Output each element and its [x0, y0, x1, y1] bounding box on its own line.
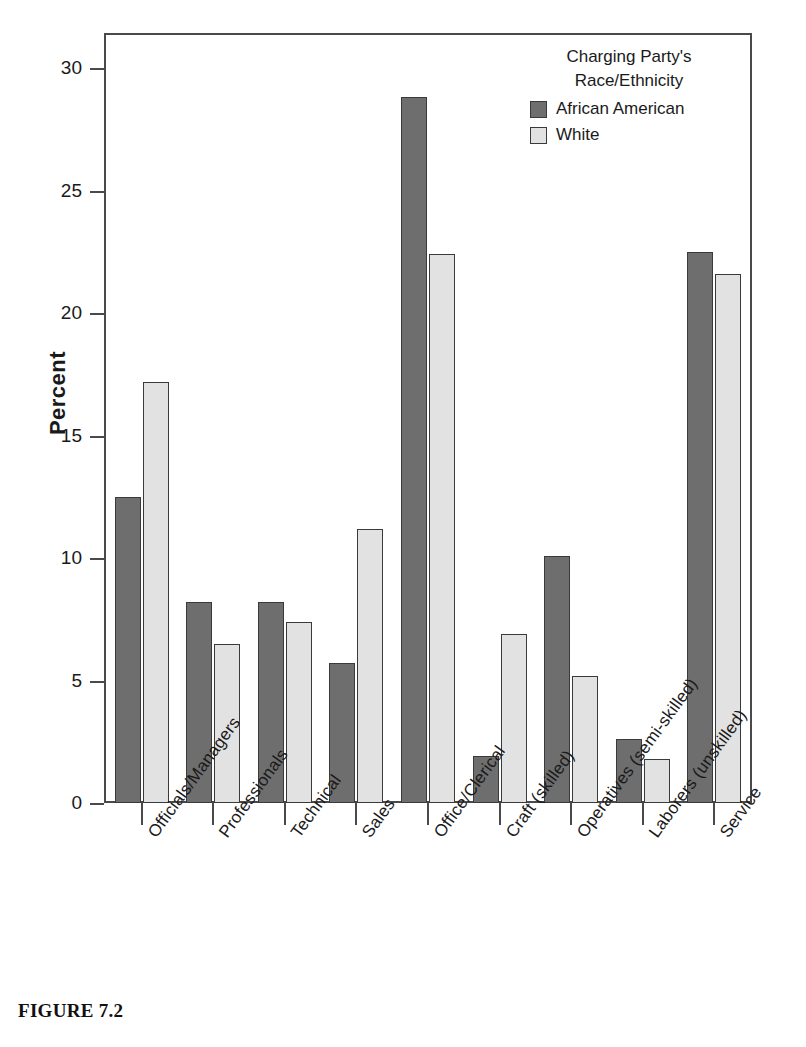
x-axis-tick-mark: [141, 803, 143, 825]
y-axis-tick: 30: [40, 68, 104, 69]
legend-entry-label: White: [556, 125, 599, 145]
bar-group: [607, 35, 679, 803]
bar: [286, 622, 312, 803]
y-axis-tick-mark: [90, 313, 104, 315]
x-axis-tick-mark: [427, 803, 429, 825]
x-axis-tick-mark: [355, 803, 357, 825]
y-axis-tick-label: 5: [71, 670, 82, 692]
legend-title: Charging Party'sRace/Ethnicity: [516, 45, 742, 93]
y-axis-tick-mark: [90, 803, 104, 805]
bar: [143, 382, 169, 803]
y-axis-tick-label: 0: [71, 792, 82, 814]
bar: [687, 252, 713, 803]
y-axis-tick: 10: [40, 558, 104, 559]
legend-swatch-icon: [530, 101, 547, 118]
x-axis-tick-mark: [713, 803, 715, 825]
x-axis-tick-mark: [499, 803, 501, 825]
y-axis-tick-label: 25: [61, 180, 82, 202]
bar-group: [249, 35, 321, 803]
y-axis-tick-label: 10: [61, 547, 82, 569]
y-axis-tick: 5: [40, 681, 104, 682]
bars-layer: [106, 35, 750, 803]
y-axis-tick-mark: [90, 191, 104, 193]
y-axis-tick: 15: [40, 436, 104, 437]
bar: [115, 497, 141, 803]
bar: [429, 254, 455, 803]
x-axis-tick-mark: [284, 803, 286, 825]
bar-group: [178, 35, 250, 803]
y-axis-tick-mark: [90, 436, 104, 438]
figure-caption: FIGURE 7.2: [18, 1000, 123, 1022]
bar-group: [464, 35, 536, 803]
y-axis-tick-mark: [90, 558, 104, 560]
legend-swatch-icon: [530, 127, 547, 144]
chart-legend: Charging Party'sRace/Ethnicity African A…: [516, 45, 742, 145]
bar-group: [392, 35, 464, 803]
bar-group: [535, 35, 607, 803]
y-axis-tick: 20: [40, 313, 104, 314]
bar: [401, 97, 427, 803]
y-axis-tick-label: 20: [61, 302, 82, 324]
y-axis-tick-mark: [90, 681, 104, 683]
bar-group: [321, 35, 393, 803]
y-axis-tick-label: 30: [61, 57, 82, 79]
legend-entry: African American: [516, 99, 742, 119]
bar: [572, 676, 598, 803]
y-axis-tick-label: 15: [61, 425, 82, 447]
bar: [501, 634, 527, 803]
legend-entry: White: [516, 125, 742, 145]
legend-title-line: Charging Party's: [516, 45, 742, 69]
bar: [644, 759, 670, 803]
legend-entry-label: African American: [556, 99, 685, 119]
y-axis-tick: 0: [40, 803, 104, 804]
y-axis-tick: 25: [40, 191, 104, 192]
figure-7-2: Percent 051015202530 Officials/ManagersP…: [0, 0, 806, 1047]
bar-group: [106, 35, 178, 803]
legend-title-line: Race/Ethnicity: [516, 69, 742, 93]
x-axis-tick-mark: [570, 803, 572, 825]
x-axis-tick-mark: [642, 803, 644, 825]
y-axis-tick-mark: [90, 68, 104, 70]
legend-entries: African AmericanWhite: [516, 99, 742, 145]
bar: [357, 529, 383, 803]
x-axis-tick-mark: [212, 803, 214, 825]
